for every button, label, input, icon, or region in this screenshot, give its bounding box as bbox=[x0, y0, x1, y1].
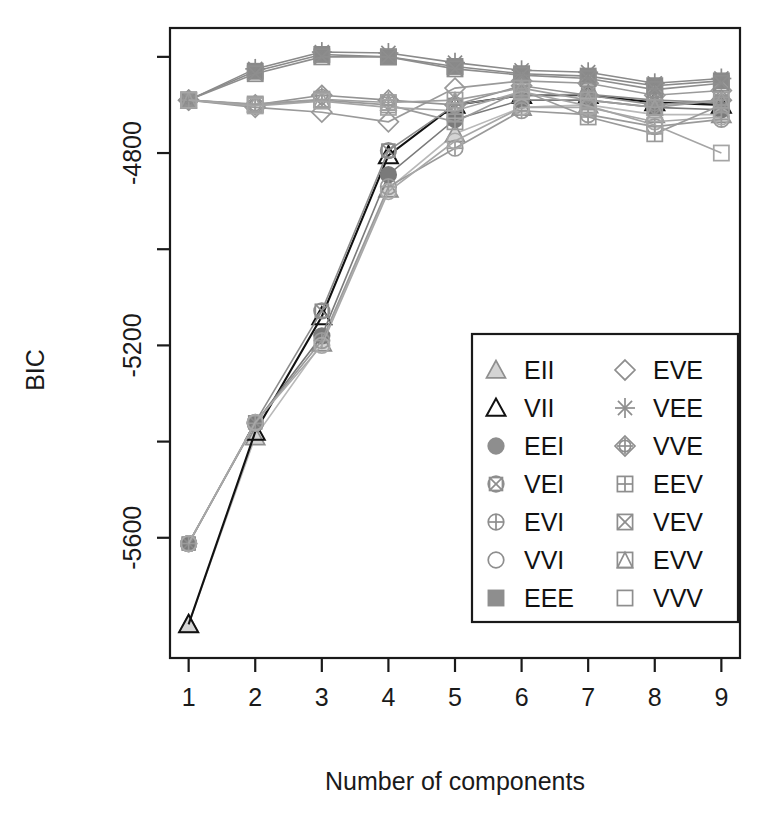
legend-label: VVV bbox=[653, 584, 703, 612]
legend-label: VII bbox=[524, 394, 555, 422]
y-tick-label: -4800 bbox=[118, 121, 146, 185]
chart-legend: EIIVIIEEIVEIEVIVVIEEEEVEVEEVVEEEVVEVEVVV… bbox=[472, 334, 738, 622]
x-tick-label: 1 bbox=[182, 683, 196, 711]
chart-canvas: -4800-5200-5600 123456789 BIC Number of … bbox=[0, 0, 764, 839]
legend-label: EEE bbox=[524, 584, 574, 612]
legend-label: VVE bbox=[653, 432, 703, 460]
x-tick-label: 3 bbox=[315, 683, 329, 711]
legend-label: EVV bbox=[653, 546, 703, 574]
legend-label: VVI bbox=[524, 546, 564, 574]
bic-plot-figure: -4800-5200-5600 123456789 BIC Number of … bbox=[0, 0, 764, 839]
legend-label: VEE bbox=[653, 394, 703, 422]
legend-label: VEV bbox=[653, 508, 703, 536]
x-tick-label: 6 bbox=[515, 683, 529, 711]
legend-label: EII bbox=[524, 356, 555, 384]
y-tick-label: -5600 bbox=[118, 506, 146, 570]
legend-label: EVI bbox=[524, 508, 564, 536]
x-tick-label: 8 bbox=[648, 683, 662, 711]
legend-symbol-icon bbox=[488, 590, 503, 605]
legend-label: VEI bbox=[524, 470, 564, 498]
legend-symbol-icon bbox=[488, 438, 504, 454]
y-axis-title: BIC bbox=[21, 349, 49, 391]
x-tick-label: 5 bbox=[448, 683, 462, 711]
legend-label: EVE bbox=[653, 356, 703, 384]
x-tick-label: 9 bbox=[714, 683, 728, 711]
y-tick-label: -5200 bbox=[118, 313, 146, 377]
legend-label: EEI bbox=[524, 432, 564, 460]
x-tick-label: 7 bbox=[581, 683, 595, 711]
x-tick-label: 2 bbox=[248, 683, 262, 711]
legend-label: EEV bbox=[653, 470, 703, 498]
x-tick-label: 4 bbox=[381, 683, 395, 711]
x-axis-title: Number of components bbox=[325, 767, 585, 795]
